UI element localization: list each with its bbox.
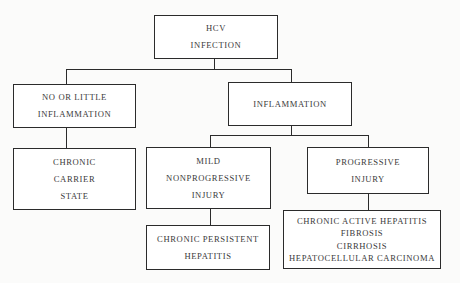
connector-root-branch bbox=[66, 69, 292, 70]
connector-to-progressive bbox=[368, 135, 369, 147]
connector-inflammation-down bbox=[291, 125, 292, 135]
node-text: HCV bbox=[206, 20, 226, 37]
node-chronic-carrier-state: CHRONIC CARRIER STATE bbox=[13, 148, 136, 210]
node-inflammation: INFLAMMATION bbox=[228, 82, 352, 126]
node-text: MILD bbox=[196, 153, 220, 170]
node-text: CARRIER bbox=[54, 171, 95, 188]
node-hcv-infection: HCV INFECTION bbox=[154, 15, 278, 59]
node-mild-nonprogressive-injury: MILD NONPROGRESSIVE INJURY bbox=[146, 147, 271, 209]
node-text: CIRRHOSIS bbox=[337, 240, 387, 253]
node-text: INFECTION bbox=[191, 37, 242, 54]
node-text: HEPATOCELLULAR CARCINOMA bbox=[289, 252, 435, 265]
node-text: HEPATITIS bbox=[184, 248, 231, 265]
connector-progressive-to-outcomes bbox=[368, 193, 369, 210]
connector-to-inflammation bbox=[291, 69, 292, 82]
connector-root-down bbox=[214, 58, 215, 69]
node-text: FIBROSIS bbox=[341, 227, 384, 240]
node-progressive-outcomes: CHRONIC ACTIVE HEPATITIS FIBROSIS CIRRHO… bbox=[283, 210, 441, 269]
node-text: INJURY bbox=[192, 187, 226, 204]
node-text: INJURY bbox=[351, 171, 385, 188]
node-text: STATE bbox=[60, 188, 88, 205]
node-text: NONPROGRESSIVE bbox=[166, 170, 251, 187]
connector-no-little-to-carrier bbox=[66, 127, 67, 148]
node-text: CHRONIC bbox=[53, 154, 96, 171]
node-chronic-persistent-hepatitis: CHRONIC PERSISTENT HEPATITIS bbox=[146, 225, 270, 270]
node-progressive-injury: PROGRESSIVE INJURY bbox=[307, 147, 429, 194]
node-text: PROGRESSIVE bbox=[336, 154, 400, 171]
node-text: NO OR LITTLE bbox=[42, 89, 107, 106]
node-text: INFLAMMATION bbox=[38, 106, 112, 123]
connector-mild-to-persistent bbox=[210, 208, 211, 225]
node-text: INFLAMMATION bbox=[253, 96, 327, 113]
connector-to-no-little bbox=[66, 69, 67, 84]
node-text: CHRONIC PERSISTENT bbox=[157, 231, 259, 248]
node-no-little-inflammation: NO OR LITTLE INFLAMMATION bbox=[13, 84, 136, 128]
connector-to-mild bbox=[210, 135, 211, 147]
node-text: CHRONIC ACTIVE HEPATITIS bbox=[297, 215, 427, 228]
connector-inflammation-branch bbox=[210, 135, 369, 136]
